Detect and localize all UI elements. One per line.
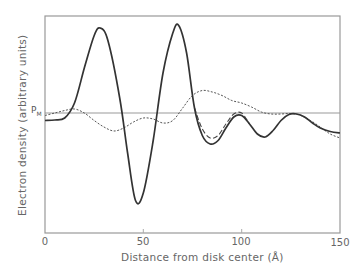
x-tick-0: 0: [42, 236, 48, 247]
y-axis-label: Electron density (arbitrary units): [16, 34, 28, 216]
pm-label-subscript: M: [36, 110, 41, 117]
pm-label: PM: [31, 105, 42, 117]
x-tick-50: 50: [137, 236, 150, 247]
x-tick-100: 100: [231, 236, 250, 247]
x-ticks: [143, 229, 241, 233]
x-axis-label: Distance from disk center (Å): [121, 251, 284, 263]
x-tick-150: 150: [330, 237, 349, 248]
chart-canvas: [0, 0, 359, 275]
solid-curve: [45, 24, 340, 204]
